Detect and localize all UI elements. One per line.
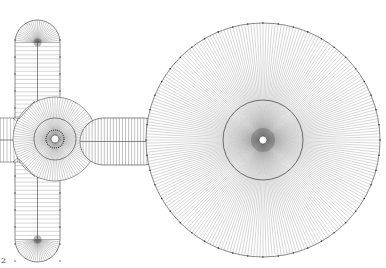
large-radial-disc bbox=[145, 22, 381, 258]
figure-number: 2 bbox=[1, 257, 6, 265]
radial-plan-drawing bbox=[0, 0, 386, 268]
